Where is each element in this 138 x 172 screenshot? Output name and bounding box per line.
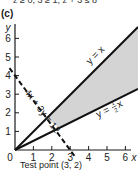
x-axis-label: x [131, 152, 138, 163]
y-axis-label: y [5, 22, 12, 33]
x-tick-6: 6 [123, 152, 129, 163]
x-tick-4: 4 [86, 152, 92, 163]
y-tick-4: 4 [5, 70, 11, 81]
x-tick-5: 5 [104, 152, 110, 163]
origin-label: 0 [7, 152, 13, 163]
y-ticks [15, 38, 19, 131]
y-tick-2: 2 [5, 107, 11, 118]
y-tick-6: 6 [5, 33, 11, 44]
y-tick-5: 5 [5, 52, 11, 63]
test-point-caption: Test point (3, 2) [20, 160, 82, 170]
y-tick-1: 1 [5, 126, 11, 137]
y-tick-3: 3 [5, 89, 11, 100]
chart: 1 2 3 4 5 6 y 0 1 2 3 4 5 6 x y = x y = … [0, 0, 138, 172]
